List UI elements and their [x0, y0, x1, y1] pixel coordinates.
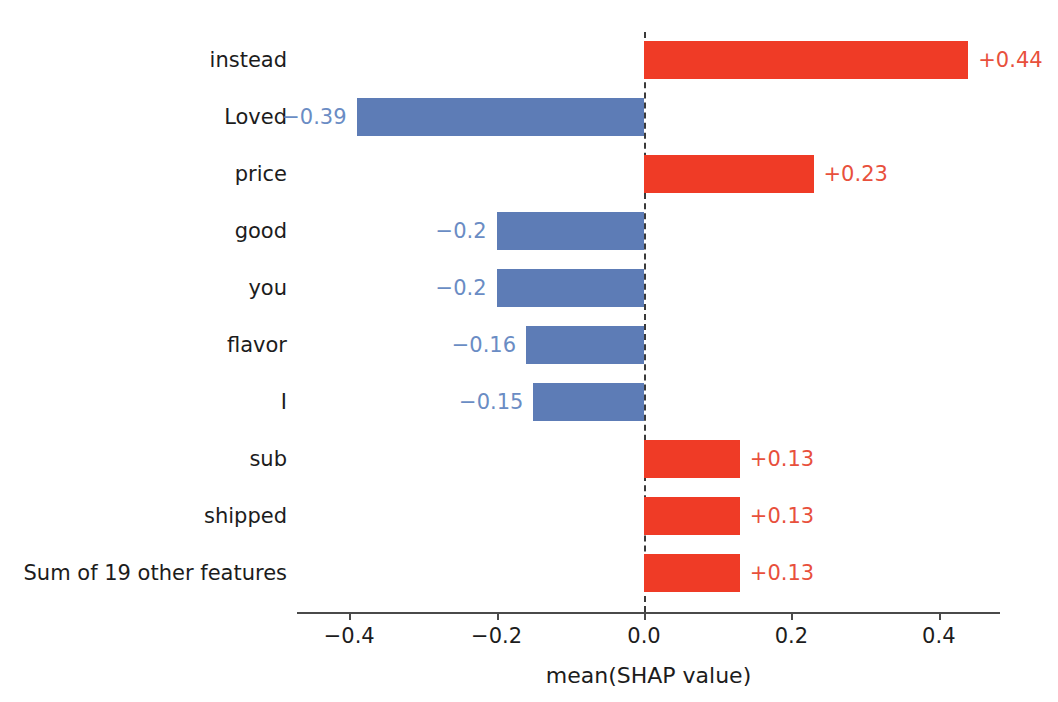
bar-row: flavor−0.16	[297, 317, 1000, 374]
bar-pos[interactable]	[644, 41, 968, 79]
bar-value-label: +0.13	[750, 554, 814, 592]
y-axis-category-label: flavor	[227, 326, 287, 364]
bar-value-label: −0.16	[452, 326, 516, 364]
bar-pos[interactable]	[644, 497, 740, 535]
bar-row: Sum of 19 other features+0.13	[297, 545, 1000, 602]
y-axis-category-label: shipped	[204, 497, 287, 535]
x-axis-tick-label: 0.0	[627, 624, 660, 648]
x-axis-tick	[497, 612, 499, 620]
bar-value-label: −0.39	[282, 98, 346, 136]
clipped-header-text	[0, 0, 1058, 4]
y-axis-category-label: you	[248, 269, 287, 307]
x-axis-tick	[349, 612, 351, 620]
x-axis-tick-label: 0.2	[775, 624, 808, 648]
plot-area: instead+0.44Loved−0.39price+0.23good−0.2…	[297, 30, 1000, 612]
bar-row: price+0.23	[297, 146, 1000, 203]
y-axis-category-label: sub	[249, 440, 287, 478]
bar-value-label: +0.44	[978, 41, 1042, 79]
x-axis-tick	[644, 612, 646, 620]
x-axis-tick	[939, 612, 941, 620]
y-axis-category-label: I	[281, 383, 287, 421]
bar-row: sub+0.13	[297, 431, 1000, 488]
bar-neg[interactable]	[526, 326, 644, 364]
bar-row: Loved−0.39	[297, 89, 1000, 146]
x-axis-tick-label: 0.4	[922, 624, 955, 648]
bar-row: instead+0.44	[297, 32, 1000, 89]
bar-neg[interactable]	[497, 212, 644, 250]
bar-value-label: +0.23	[824, 155, 888, 193]
x-axis-tick-label: −0.4	[324, 624, 375, 648]
bar-neg[interactable]	[357, 98, 644, 136]
y-axis-category-label: good	[235, 212, 287, 250]
bar-neg[interactable]	[533, 383, 644, 421]
bar-pos[interactable]	[644, 155, 814, 193]
bar-neg[interactable]	[497, 269, 644, 307]
bar-value-label: −0.15	[459, 383, 523, 421]
bar-row: you−0.2	[297, 260, 1000, 317]
bar-row: I−0.15	[297, 374, 1000, 431]
y-axis-category-label: price	[235, 155, 287, 193]
bar-value-label: +0.13	[750, 497, 814, 535]
x-axis-tick	[791, 612, 793, 620]
bar-pos[interactable]	[644, 554, 740, 592]
bar-value-label: −0.2	[436, 269, 487, 307]
x-axis-line	[297, 612, 1000, 614]
x-axis-title: mean(SHAP value)	[297, 663, 1000, 688]
y-axis-category-label: Loved	[224, 98, 287, 136]
x-axis-tick-label: −0.2	[471, 624, 522, 648]
bar-value-label: +0.13	[750, 440, 814, 478]
y-axis-category-label: instead	[210, 41, 287, 79]
y-axis-category-label: Sum of 19 other features	[24, 554, 287, 592]
shap-bar-chart-figure: instead+0.44Loved−0.39price+0.23good−0.2…	[0, 0, 1058, 702]
bar-value-label: −0.2	[436, 212, 487, 250]
bar-row: good−0.2	[297, 203, 1000, 260]
bar-pos[interactable]	[644, 440, 740, 478]
bar-row: shipped+0.13	[297, 488, 1000, 545]
